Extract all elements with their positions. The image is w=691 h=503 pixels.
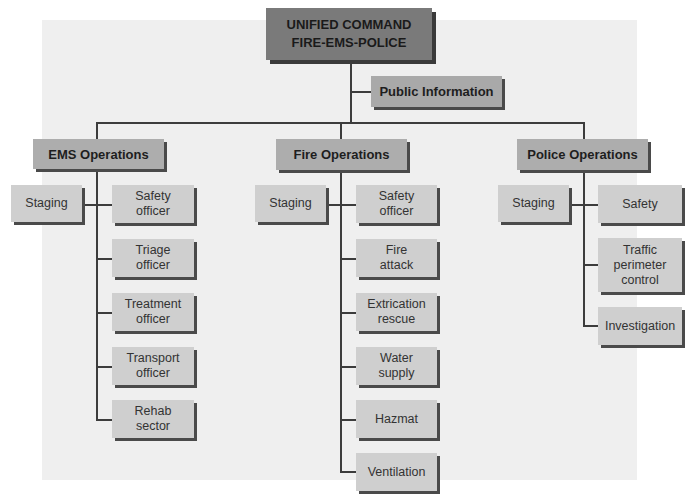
ventilation-box: Ventilation [356, 453, 437, 491]
connector-fire-unit-2 [340, 258, 356, 260]
investigation-box: Investigation [598, 307, 682, 345]
connector-fire-unit-3 [340, 312, 356, 314]
extrication-rescue-box: Extrication rescue [356, 293, 437, 331]
connector-fire-spine [340, 170, 342, 472]
connector-police-unit-2 [583, 264, 598, 266]
connector-fire-unit-5 [340, 419, 356, 421]
ems-rehab-sector-box: Rehab sector [112, 400, 194, 438]
connector-police-unit-3 [583, 325, 598, 327]
connector-fire-drop [340, 122, 342, 140]
police-operations-box: Police Operations [517, 139, 648, 170]
connector-police-spine [583, 170, 585, 327]
police-safety-box: Safety [598, 185, 682, 223]
connector-ems-unit-4 [96, 366, 112, 368]
connector-ems-unit-2 [96, 258, 112, 260]
connector-fire-staging [326, 204, 356, 206]
fire-safety-officer-box: Safety officer [356, 185, 437, 223]
connector-police-drop [583, 122, 585, 140]
public-information-box: Public Information [371, 76, 502, 107]
fire-operations-box: Fire Operations [276, 139, 407, 170]
connector-ems-drop [96, 122, 98, 139]
traffic-perimeter-control-box: Traffic perimeter control [598, 238, 682, 292]
connector-fire-unit-6 [340, 471, 356, 473]
hazmat-box: Hazmat [356, 400, 437, 438]
ems-triage-officer-box: Triage officer [112, 239, 194, 277]
ems-operations-box: EMS Operations [33, 139, 164, 169]
ems-safety-officer-box: Safety officer [112, 185, 194, 223]
water-supply-box: Water supply [356, 347, 437, 385]
fire-staging-box: Staging [255, 185, 326, 222]
ems-staging-box: Staging [11, 185, 82, 222]
ems-treatment-officer-box: Treatment officer [112, 293, 194, 331]
connector-ems-staging [82, 204, 112, 206]
police-staging-box: Staging [498, 185, 569, 222]
connector-police-staging [569, 204, 598, 206]
unified-command-box: UNIFIED COMMAND FIRE-EMS-POLICE [266, 8, 432, 60]
connector-public-information [351, 91, 371, 93]
connector-ems-unit-5 [96, 419, 112, 421]
connector-ems-unit-3 [96, 312, 112, 314]
connector-fire-unit-4 [340, 366, 356, 368]
ems-transport-officer-box: Transport officer [112, 347, 194, 385]
fire-attack-box: Fire attack [356, 239, 437, 277]
